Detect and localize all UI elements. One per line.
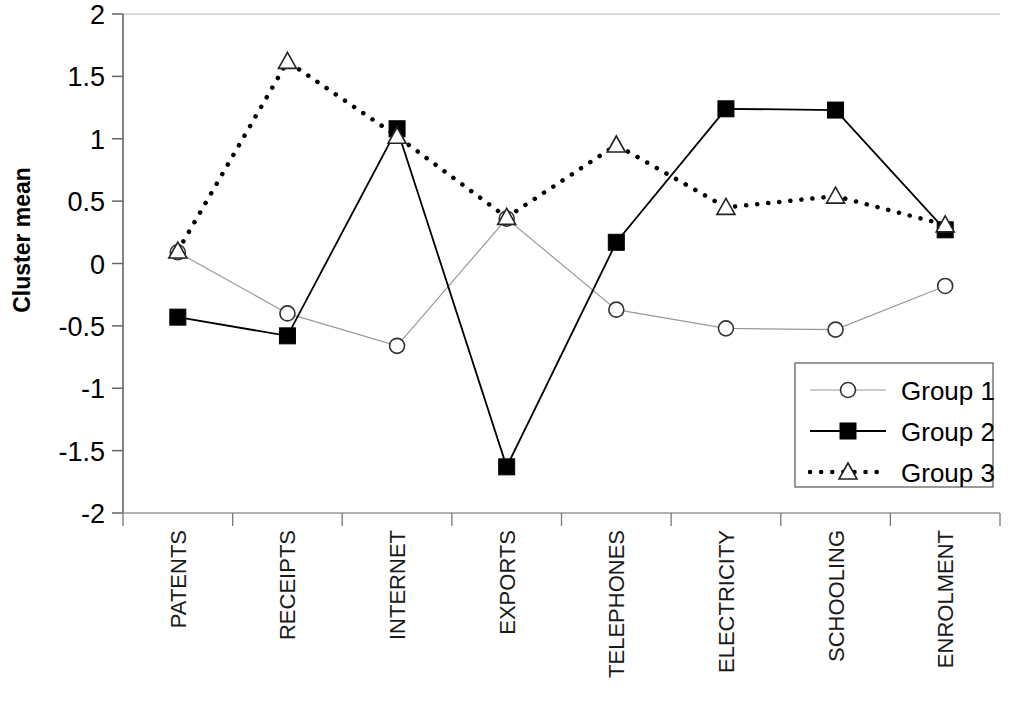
y-tick-label: 0.5 (67, 187, 105, 217)
data-point-marker (718, 321, 733, 336)
data-point-marker (718, 101, 734, 117)
x-category-label: ENROLMENT (933, 530, 958, 668)
data-point-marker (609, 302, 624, 317)
data-point-marker (840, 423, 856, 439)
legend: Group 1Group 2Group 3 (795, 363, 995, 488)
x-category-label: ELECTRICITY (714, 530, 739, 673)
data-point-marker (828, 322, 843, 337)
x-category-label: PATENTS (166, 530, 191, 628)
data-point-marker (390, 338, 405, 353)
y-tick-label: -2 (81, 499, 105, 529)
cluster-mean-line-chart: 21.510.50-0.5-1-1.5-2 PATENTSRECEIPTSINT… (0, 0, 1011, 705)
x-axis-category-labels: PATENTSRECEIPTSINTERNETEXPORTSTELEPHONES… (166, 530, 958, 678)
data-point-marker (170, 309, 186, 325)
data-point-marker (608, 234, 624, 250)
legend-item-label: Group 2 (901, 417, 995, 447)
x-category-label: INTERNET (385, 530, 410, 640)
y-axis-title: Cluster mean (9, 167, 35, 313)
x-category-label: TELEPHONES (604, 530, 629, 678)
x-category-label: EXPORTS (495, 530, 520, 635)
y-tick-label: 0 (90, 250, 105, 280)
chart-page: 21.510.50-0.5-1-1.5-2 PATENTSRECEIPTSINT… (0, 0, 1011, 705)
legend-item-label: Group 3 (901, 458, 995, 488)
data-point-marker (938, 278, 953, 293)
y-tick-label: -0.5 (58, 312, 105, 342)
data-point-marker (499, 459, 515, 475)
legend-item-label: Group 1 (901, 376, 995, 406)
data-point-marker (841, 383, 856, 398)
data-point-marker (828, 102, 844, 118)
data-point-marker (279, 328, 295, 344)
x-category-label: SCHOOLING (824, 530, 849, 662)
y-tick-label: -1.5 (58, 437, 105, 467)
y-tick-label: 1 (90, 125, 105, 155)
x-axis-ticks (123, 513, 1000, 526)
y-tick-label: 2 (90, 0, 105, 30)
data-point-marker (280, 306, 295, 321)
y-tick-label: -1 (81, 374, 105, 404)
x-category-label: RECEIPTS (275, 530, 300, 640)
y-axis-ticks: 21.510.50-0.5-1-1.5-2 (58, 0, 123, 529)
y-tick-label: 1.5 (67, 62, 105, 92)
